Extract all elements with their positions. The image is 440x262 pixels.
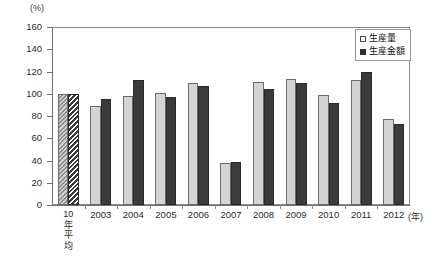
bar-group — [247, 27, 280, 205]
bar-production-value — [296, 83, 307, 205]
bar-group — [215, 27, 248, 205]
bar-production-volume — [383, 119, 394, 205]
legend-swatch-light-icon — [360, 36, 366, 42]
bar-production-value — [394, 124, 405, 205]
x-axis-tick-label: 2012 — [377, 209, 410, 220]
bar-group — [85, 27, 118, 205]
x-axis-tick-label: 2003 — [85, 209, 118, 220]
bar-production-value — [264, 89, 275, 205]
x-axis-label-line: 10 — [52, 209, 85, 220]
x-axis-label-line: 均 — [52, 241, 85, 252]
legend-label-production-volume: 生産量 — [369, 33, 396, 44]
bar-production-value — [329, 103, 340, 205]
y-axis-unit-label: (%) — [30, 3, 44, 13]
bar-production-volume — [155, 93, 166, 205]
bar-group — [280, 27, 313, 205]
x-axis-line — [52, 205, 410, 206]
x-axis-tick-label: 2009 — [280, 209, 313, 220]
bar-production-volume — [58, 94, 69, 205]
legend-label-production-value: 生産金額 — [369, 46, 405, 57]
x-axis-tick-label: 2008 — [247, 209, 280, 220]
bar-production-volume — [123, 96, 134, 205]
x-axis-tick-label: 10年平均 — [52, 209, 85, 251]
bar-production-value — [198, 86, 209, 205]
y-axis-tick-label: 120 — [2, 66, 42, 77]
y-axis-tick-label: 160 — [2, 21, 42, 32]
bar-production-value — [133, 80, 144, 205]
legend-item-production-volume: 生産量 — [360, 33, 405, 44]
bar-group — [182, 27, 215, 205]
y-axis-tick-label: 0 — [2, 199, 42, 210]
x-axis-tick-label: 2007 — [215, 209, 248, 220]
chart-legend: 生産量 生産金額 — [355, 29, 411, 61]
x-axis-tick-label: 2005 — [150, 209, 183, 220]
y-axis-tick-label: 140 — [2, 43, 42, 54]
bar-group — [150, 27, 183, 205]
y-axis-tick-label: 100 — [2, 88, 42, 99]
bar-production-value — [231, 162, 242, 205]
x-axis-tick-label: 2004 — [117, 209, 150, 220]
bar-group — [52, 27, 85, 205]
y-axis-tick — [47, 205, 52, 206]
bar-production-value — [68, 94, 79, 205]
legend-swatch-dark-icon — [360, 49, 366, 55]
bar-production-volume — [90, 106, 101, 205]
bar-production-volume — [188, 83, 199, 205]
y-axis-tick-label: 40 — [2, 155, 42, 166]
x-axis-tick-label: 2006 — [182, 209, 215, 220]
bar-production-volume — [220, 163, 231, 205]
x-axis-unit-label: (年) — [408, 210, 423, 223]
bar-production-volume — [318, 95, 329, 205]
x-axis-tick-label: 2010 — [312, 209, 345, 220]
bar-group — [117, 27, 150, 205]
bar-group — [312, 27, 345, 205]
bar-production-volume — [253, 82, 264, 205]
x-axis-label-line: 平 — [52, 230, 85, 241]
y-axis-tick-label: 80 — [2, 110, 42, 121]
x-axis-label-line: 年 — [52, 220, 85, 231]
bar-production-value — [166, 97, 177, 205]
bar-production-value — [361, 72, 372, 206]
bar-production-value — [101, 99, 112, 205]
bar-production-volume — [351, 80, 362, 205]
bar-chart: (%) 020406080100120140160 10年平均200320042… — [0, 0, 440, 262]
x-axis-tick-label: 2011 — [345, 209, 378, 220]
bar-production-volume — [286, 79, 297, 205]
y-axis-tick-label: 60 — [2, 132, 42, 143]
y-axis-tick-label: 20 — [2, 177, 42, 188]
legend-item-production-value: 生産金額 — [360, 46, 405, 57]
